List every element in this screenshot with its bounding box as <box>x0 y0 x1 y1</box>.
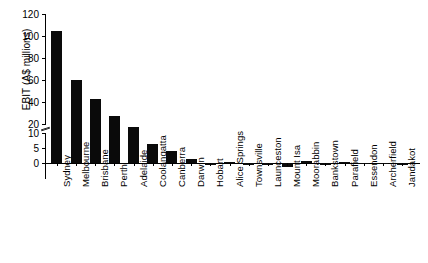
y-tick-label: 120 <box>12 9 39 20</box>
x-tick <box>134 163 135 166</box>
y-tick <box>42 58 45 59</box>
y-tick <box>42 124 45 125</box>
y-axis-line <box>45 14 46 125</box>
x-tick <box>230 163 231 166</box>
y-tick-label: 0 <box>12 158 39 169</box>
x-tick-label-darwin: Darwin <box>195 157 206 187</box>
x-tick <box>345 163 346 166</box>
y-tick-label: 10 <box>12 128 39 139</box>
y-tick-label: 60 <box>12 75 39 86</box>
y-tick-label: 100 <box>12 31 39 42</box>
y-tick <box>42 133 45 134</box>
y-tick <box>42 14 45 15</box>
y-tick <box>42 163 45 164</box>
x-tick <box>114 163 115 166</box>
x-tick-label-mount-isa: Mount Isa <box>291 145 302 187</box>
y-tick-label: 5 <box>12 143 39 154</box>
x-tick <box>210 163 211 166</box>
x-tick-label-perth: Perth <box>118 164 129 187</box>
x-tick <box>249 163 250 166</box>
x-tick <box>287 163 288 166</box>
x-tick <box>325 163 326 166</box>
x-tick <box>95 163 96 166</box>
x-tick <box>57 163 58 166</box>
y-tick-label: 40 <box>12 97 39 108</box>
x-tick <box>172 163 173 166</box>
x-tick <box>402 163 403 166</box>
ebit-bar-chart: EBIT (A$ millions) 120100806040201050Syd… <box>0 0 428 263</box>
x-tick-label-canberra: Canberra <box>176 147 187 187</box>
y-axis-line <box>45 133 46 179</box>
x-tick-label-essendon: Essendon <box>368 144 379 187</box>
y-tick <box>42 102 45 103</box>
x-tick <box>383 163 384 166</box>
bar-perth[interactable] <box>109 116 120 163</box>
y-tick-label: 80 <box>12 53 39 64</box>
y-tick <box>42 36 45 37</box>
x-tick <box>364 163 365 166</box>
y-tick <box>42 148 45 149</box>
x-tick <box>306 163 307 166</box>
y-tick <box>42 80 45 81</box>
plot-area: 120100806040201050SydneyMelbourneBrisban… <box>45 14 420 178</box>
x-tick-label-bankstown: Bankstown <box>329 140 340 187</box>
x-tick-label-alice-springs: Alice Springs <box>234 131 245 187</box>
x-tick <box>153 163 154 166</box>
x-tick <box>76 163 77 166</box>
x-tick <box>268 163 269 166</box>
x-tick-label-jandakot: Jandakot <box>406 148 417 187</box>
x-tick <box>191 163 192 166</box>
x-tick-label-parafield: Parafield <box>349 149 360 187</box>
x-tick-label-townsville: Townsville <box>253 143 264 187</box>
bar-sydney[interactable] <box>51 31 62 164</box>
